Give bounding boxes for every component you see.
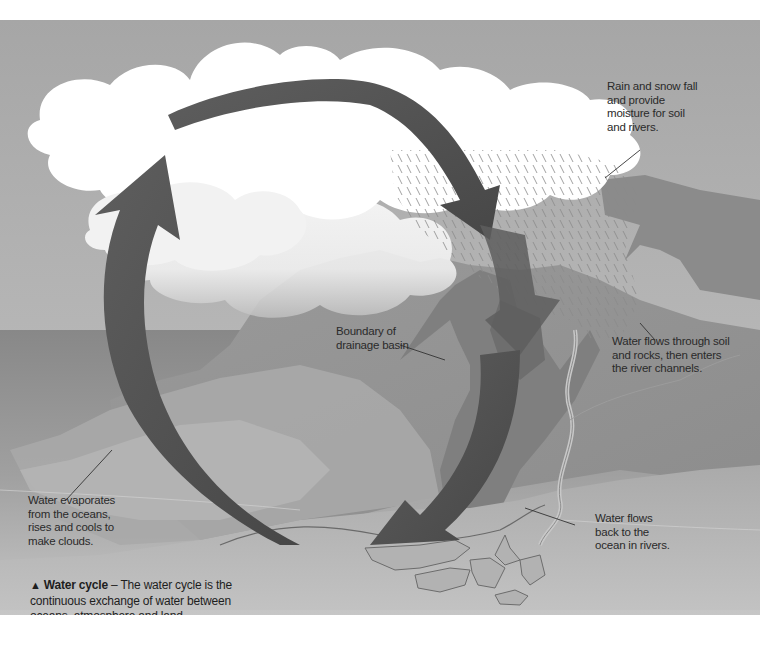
label-boundary: Boundary of drainage basin — [336, 325, 409, 352]
label-rain: Rain and snow fall and provide moisture … — [607, 80, 697, 134]
page-top-margin — [0, 0, 760, 20]
caption-title: Water cycle — [44, 578, 108, 592]
water-cycle-figure: Rain and snow fall and provide moisture … — [0, 20, 760, 615]
triangle-icon: ▲ — [30, 579, 41, 591]
label-evaporate: Water evaporates from the oceans, rises … — [28, 494, 115, 548]
figure-caption: ▲ Water cycle – The water cycle is the c… — [30, 578, 270, 615]
caption-separator: – — [108, 578, 121, 592]
label-river-back: Water flows back to the ocean in rivers. — [595, 512, 670, 553]
label-soil: Water flows through soil and rocks, then… — [612, 335, 730, 376]
page-bottom-margin — [0, 615, 760, 650]
